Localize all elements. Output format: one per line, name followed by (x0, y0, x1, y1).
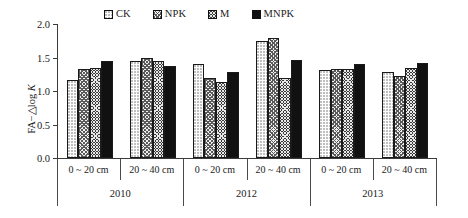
bar-mnpk (164, 66, 176, 158)
legend-swatch-crosshatch-icon (153, 10, 162, 19)
legend-swatch-dark-crosshatch-icon (208, 10, 217, 19)
year-axis-separator (436, 180, 437, 206)
depth-axis-label: 0 ~ 20 cm (310, 159, 373, 180)
depth-axis-label: 0 ~ 20 cm (183, 159, 246, 180)
bar-ck (319, 70, 331, 158)
legend-label-ck: CK (116, 9, 131, 20)
plot-area: 0.00.51.01.52.0 (57, 24, 437, 159)
bar-mnpk (227, 72, 239, 158)
depth-axis-separator (310, 159, 311, 180)
year-axis-label: 2010 (57, 180, 183, 206)
depth-axis-separator (247, 159, 248, 180)
bar-group (58, 24, 121, 158)
bar-m (342, 69, 354, 158)
y-axis-tick-label: 1.0 (37, 86, 50, 97)
legend-item-mnpk: MNPK (252, 9, 295, 20)
bar-npk (204, 78, 216, 158)
depth-axis-separator (57, 159, 58, 180)
year-axis-separator (183, 180, 184, 206)
legend-item-npk: NPK (153, 9, 186, 20)
bar-ck (130, 61, 142, 158)
depth-axis-separator (436, 159, 437, 180)
y-axis-tick-label: 0.5 (37, 119, 50, 130)
depth-axis-row: 0 ~ 20 cm20 ~ 40 cm0 ~ 20 cm20 ~ 40 cm0 … (57, 159, 436, 180)
bar-m (90, 68, 102, 158)
legend-swatch-dotted-icon (104, 10, 113, 19)
depth-axis-separator (373, 159, 374, 180)
bar-mnpk (354, 64, 366, 158)
year-axis-label: 2013 (310, 180, 436, 206)
depth-axis-label: 20 ~ 40 cm (247, 159, 310, 180)
legend-item-m: M (208, 9, 229, 20)
bar-group (248, 24, 311, 158)
bar-ck (382, 72, 394, 158)
y-axis-tick-label: 2.0 (37, 19, 50, 30)
bar-group (374, 24, 437, 158)
y-axis-tick-label: 1.5 (37, 52, 50, 63)
y-axis-title-prefix: FA−△log (26, 91, 37, 134)
bar-group (184, 24, 247, 158)
y-axis-tick-label: 0.0 (37, 153, 50, 164)
bar-group (121, 24, 184, 158)
bar-mnpk (291, 60, 303, 158)
legend-label-mnpk: MNPK (264, 9, 295, 20)
bar-m (216, 82, 228, 158)
bar-npk (78, 69, 90, 158)
depth-axis-label: 20 ~ 40 cm (373, 159, 436, 180)
legend-item-ck: CK (104, 9, 131, 20)
bar-npk (141, 58, 153, 158)
bar-chart: CK NPK M MNPK FA−△log K 0.00.51.01.52.0 … (0, 0, 468, 218)
depth-axis-label: 0 ~ 20 cm (57, 159, 120, 180)
year-axis-row: 201020122013 (57, 180, 436, 206)
bar-m (279, 78, 291, 158)
bar-m (153, 61, 165, 158)
bar-npk (331, 69, 343, 158)
depth-axis-label: 20 ~ 40 cm (120, 159, 183, 180)
bar-npk (268, 38, 280, 158)
bar-ck (256, 41, 268, 158)
bar-ck (193, 64, 205, 158)
bar-m (405, 68, 417, 158)
depth-axis-separator (183, 159, 184, 180)
bar-npk (394, 76, 406, 158)
bar-mnpk (417, 63, 429, 158)
chart-legend: CK NPK M MNPK (104, 9, 294, 20)
legend-label-npk: NPK (165, 9, 186, 20)
bar-ck (67, 80, 79, 158)
bar-series-container (58, 24, 437, 158)
bar-mnpk (101, 61, 113, 158)
year-axis-label: 2012 (183, 180, 309, 206)
legend-label-m: M (220, 9, 229, 20)
y-axis-title: FA−△log K (25, 84, 37, 134)
y-axis-title-variable: K (26, 84, 37, 91)
year-axis-separator (57, 180, 58, 206)
depth-axis-separator (120, 159, 121, 180)
year-axis-separator (310, 180, 311, 206)
legend-swatch-solid-black-icon (252, 10, 261, 19)
bar-group (311, 24, 374, 158)
